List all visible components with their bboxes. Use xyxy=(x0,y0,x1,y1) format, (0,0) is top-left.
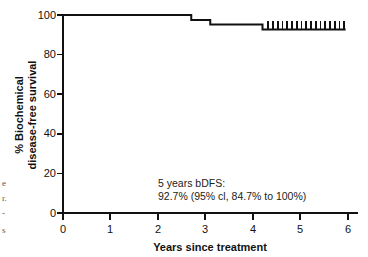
x-tick-label-6: 6 xyxy=(345,223,351,235)
x-axis-title: Years since treatment xyxy=(153,241,267,253)
y-tick-label-0: 0 xyxy=(50,207,56,219)
x-tick-label-1: 1 xyxy=(107,223,113,235)
x-axis xyxy=(63,213,358,220)
x-tick-label-2: 2 xyxy=(155,223,161,235)
y-tick-label-60: 60 xyxy=(44,88,56,100)
x-tick-label-3: 3 xyxy=(202,223,208,235)
edge-fragment-2: r. xyxy=(2,193,7,203)
y-axis-title-line2: disease-free survival xyxy=(26,61,38,170)
bdfs-annotation: 5 years bDFS: 92.7% (95% cl, 84.7% to 10… xyxy=(158,177,306,202)
censoring-marks xyxy=(268,21,344,29)
km-survival-chart: e r. - s % Biochemical disease-free surv… xyxy=(0,0,368,257)
y-tick-label-100: 100 xyxy=(38,9,56,21)
y-axis xyxy=(57,15,63,213)
edge-fragment-1: e xyxy=(2,178,6,188)
edge-fragment-4: s xyxy=(2,225,6,235)
x-axis-tick-labels: 0 1 2 3 4 5 6 xyxy=(60,223,351,235)
y-axis-title-line1: % Biochemical xyxy=(13,76,25,154)
edge-caption-fragments: e r. - s xyxy=(2,178,7,235)
y-tick-label-20: 20 xyxy=(44,167,56,179)
y-tick-label-80: 80 xyxy=(44,48,56,60)
survival-curve xyxy=(63,15,346,29)
annotation-line-1: 5 years bDFS: xyxy=(158,177,225,189)
y-axis-title: % Biochemical disease-free survival xyxy=(13,61,38,170)
edge-fragment-3: - xyxy=(2,208,5,218)
kaplan-meier-figure: e r. - s % Biochemical disease-free surv… xyxy=(0,0,368,257)
x-tick-label-0: 0 xyxy=(60,223,66,235)
annotation-line-2: 92.7% (95% cl, 84.7% to 100%) xyxy=(158,190,306,202)
x-tick-label-5: 5 xyxy=(297,223,303,235)
y-tick-label-40: 40 xyxy=(44,127,56,139)
y-axis-tick-labels: 100 80 60 40 20 0 xyxy=(38,9,56,219)
x-tick-label-4: 4 xyxy=(250,223,256,235)
